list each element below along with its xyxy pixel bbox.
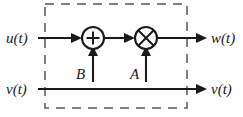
label-output-v: v(t) <box>211 81 232 98</box>
label-gain-B: B <box>76 66 85 82</box>
arrowhead-output-w <box>196 33 207 43</box>
block-diagram-canvas: u(t) v(t) w(t) v(t) B A <box>0 0 243 117</box>
label-gain-A: A <box>129 66 140 82</box>
block-diagram-svg: u(t) v(t) w(t) v(t) B A <box>0 0 243 117</box>
arrowhead-into-sum <box>71 33 82 43</box>
label-input-u: u(t) <box>6 30 28 47</box>
label-output-w: w(t) <box>211 30 235 47</box>
arrowhead-output-v <box>196 84 207 94</box>
label-input-v: v(t) <box>6 81 27 98</box>
arrowhead-into-multiplier <box>124 33 135 43</box>
system-boundary-box <box>45 4 187 108</box>
